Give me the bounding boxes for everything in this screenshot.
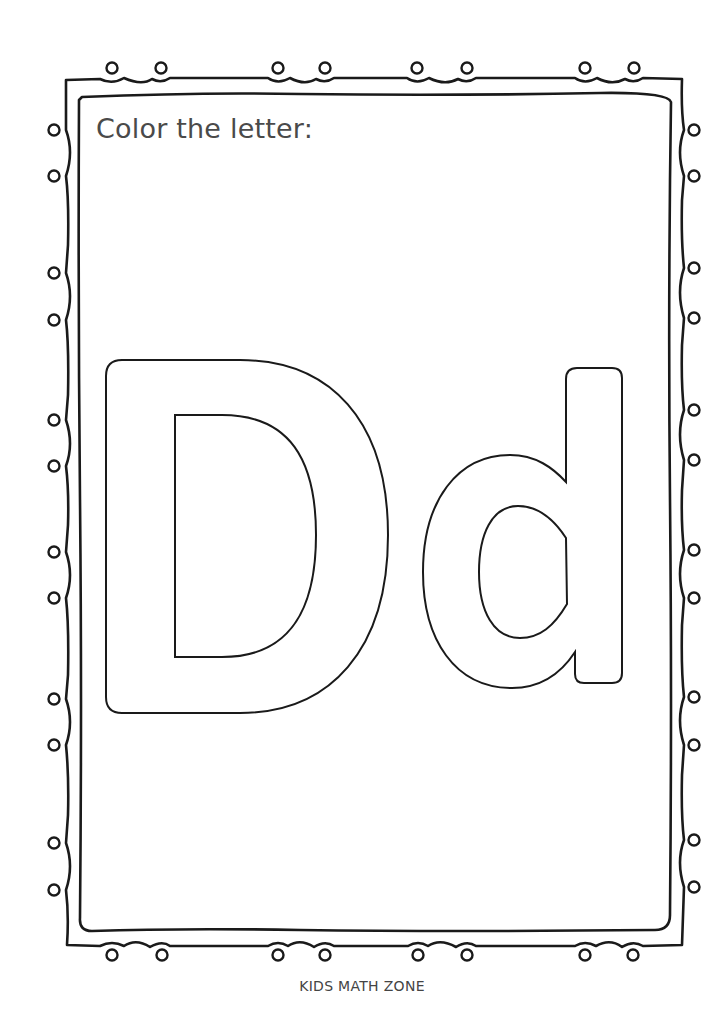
uppercase-letter-d (106, 360, 388, 713)
lowercase-letter-d (423, 368, 622, 688)
footer-credit: KIDS MATH ZONE (0, 978, 724, 994)
coloring-worksheet: Color the letter: D d KIDS MATH ZONE (0, 0, 724, 1021)
letter-outlines (0, 0, 724, 1021)
